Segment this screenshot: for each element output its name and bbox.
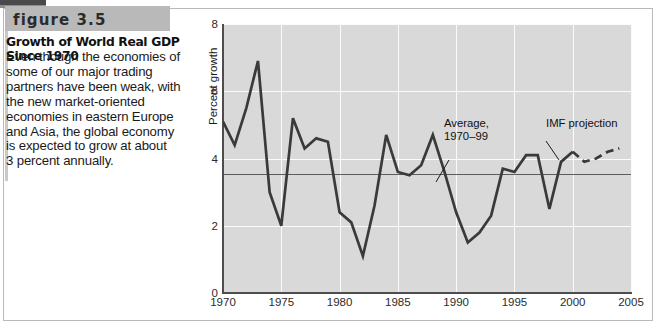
figure-description-line: is expected to grow at about xyxy=(6,139,196,154)
y-tick-label: 6 xyxy=(212,85,218,97)
series-container xyxy=(223,24,631,293)
figure-description-line: and Asia, the global economy xyxy=(6,125,196,140)
x-tick-label: 1980 xyxy=(327,296,353,308)
x-tick-label: 1990 xyxy=(443,296,469,308)
figure-description-line: Even though the economies of xyxy=(6,50,196,65)
figure-description-line: some of our major trading xyxy=(6,65,196,80)
chart-area: Percent growth 02468 1970197519801985199… xyxy=(208,10,652,315)
figure-description-line: partners have been weak, with xyxy=(6,80,196,95)
annot-imf-leader xyxy=(546,141,559,160)
y-tick-label: 4 xyxy=(212,153,218,165)
x-tick-label: 1985 xyxy=(385,296,411,308)
x-tick-label: 1975 xyxy=(268,296,294,308)
figure-description-line: 3 percent annually. xyxy=(6,154,196,169)
figure-description-line: the new market-oriented xyxy=(6,95,196,110)
series-line-actual xyxy=(223,61,573,256)
figure-label: figure 3.5 xyxy=(13,11,106,29)
y-tick-label: 8 xyxy=(212,18,218,30)
figure-description-line: economies in eastern Europe xyxy=(6,110,196,125)
figure-description: Even though the economies ofsome of our … xyxy=(6,50,196,169)
x-tick-label: 1995 xyxy=(502,296,528,308)
x-tick-label: 2000 xyxy=(560,296,586,308)
vertical-gridline xyxy=(631,24,632,293)
y-tick-label: 2 xyxy=(212,220,218,232)
x-tick-label: 1970 xyxy=(210,296,236,308)
series-line-projection xyxy=(573,148,620,161)
x-tick-label: 2005 xyxy=(618,296,644,308)
